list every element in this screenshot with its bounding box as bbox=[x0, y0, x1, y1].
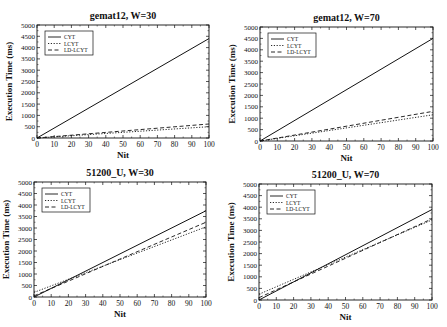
y-tick-label: 3000 bbox=[244, 69, 259, 77]
legend-label: LD-LCYT bbox=[287, 49, 311, 55]
x-axis-label: Nit bbox=[340, 312, 352, 322]
legend-label: LCYT bbox=[61, 198, 76, 204]
series-group bbox=[34, 211, 206, 297]
series-line-lcyt bbox=[34, 227, 206, 293]
y-tick-label: 3500 bbox=[18, 213, 33, 221]
chart-title: gemat12, W=70 bbox=[313, 12, 380, 23]
x-tick-label: 0 bbox=[35, 140, 39, 149]
y-tick-label: 2500 bbox=[243, 239, 258, 247]
y-tick-label: 1000 bbox=[244, 115, 259, 123]
x-tick-label: 100 bbox=[427, 143, 439, 152]
y-tick-label: 3500 bbox=[21, 55, 36, 63]
y-tick-label: 0 bbox=[255, 138, 259, 146]
series-line-lcyt bbox=[259, 220, 432, 294]
y-tick-label: 4500 bbox=[21, 33, 36, 41]
legend-label: LCYT bbox=[287, 43, 302, 49]
chart-panel-1: gemat12, W=700102030405060708090100Nit05… bbox=[224, 0, 447, 169]
x-tick-label: 80 bbox=[394, 302, 402, 311]
chart-svg: gemat12, W=700102030405060708090100Nit05… bbox=[224, 0, 447, 165]
y-tick-label: 2500 bbox=[18, 236, 33, 244]
legend: CYTLCYTLD-LCYT bbox=[45, 31, 93, 55]
y-axis-label: Execution Time (ms) bbox=[227, 44, 237, 124]
y-tick-label: 4000 bbox=[243, 204, 258, 212]
x-tick-label: 60 bbox=[136, 140, 144, 149]
legend-label: LD-LCYT bbox=[64, 47, 88, 53]
y-tick-label: 4500 bbox=[18, 190, 33, 198]
chart-title: gemat12, W=30 bbox=[90, 10, 157, 21]
y-tick-label: 2000 bbox=[18, 248, 33, 256]
x-tick-label: 20 bbox=[291, 143, 299, 152]
x-tick-label: 20 bbox=[290, 302, 298, 311]
y-tick-label: 1000 bbox=[18, 271, 33, 279]
y-tick-label: 3000 bbox=[21, 67, 36, 75]
y-tick-label: 2500 bbox=[244, 81, 259, 89]
x-tick-label: 0 bbox=[258, 143, 262, 152]
y-tick-label: 1500 bbox=[244, 103, 259, 111]
y-tick-label: 1000 bbox=[243, 273, 258, 281]
series-line-cyt bbox=[34, 211, 206, 297]
series-line-lcyt bbox=[260, 115, 433, 141]
chart-svg: gemat12, W=300102030405060708090100Nit05… bbox=[0, 0, 224, 165]
series-line-ld-lcyt bbox=[34, 222, 206, 296]
x-tick-label: 0 bbox=[257, 302, 261, 311]
x-tick-label: 80 bbox=[168, 299, 176, 308]
y-tick-label: 500 bbox=[248, 126, 259, 134]
x-tick-label: 70 bbox=[376, 302, 384, 311]
y-tick-label: 4000 bbox=[21, 44, 36, 52]
x-tick-label: 90 bbox=[411, 302, 419, 311]
legend-label: CYT bbox=[61, 191, 73, 197]
y-tick-label: 500 bbox=[22, 282, 33, 290]
x-tick-label: 10 bbox=[47, 299, 55, 308]
y-tick-label: 2000 bbox=[244, 92, 259, 100]
legend-label: LD-LCYT bbox=[286, 206, 310, 212]
x-tick-label: 90 bbox=[188, 140, 196, 149]
y-axis-label: Execution Time (ms) bbox=[4, 42, 14, 122]
legend-label: CYT bbox=[286, 193, 298, 199]
legend: CYTLCYTLD-LCYT bbox=[42, 188, 90, 212]
y-tick-label: 5000 bbox=[244, 24, 259, 32]
y-tick-label: 3000 bbox=[18, 225, 33, 233]
x-tick-label: 10 bbox=[273, 302, 281, 311]
y-tick-label: 2000 bbox=[21, 89, 36, 97]
y-tick-label: 4000 bbox=[244, 46, 259, 54]
chart-svg: 51200_U, W=700102030405060708090100Nit05… bbox=[224, 162, 447, 327]
x-axis-label: Nit bbox=[117, 150, 129, 160]
x-tick-label: 40 bbox=[102, 140, 110, 149]
x-tick-label: 50 bbox=[342, 302, 350, 311]
chart-svg: 51200_U, W=300102030405060708090100Nit05… bbox=[0, 162, 224, 327]
y-axis-label: Execution Time (ms) bbox=[226, 202, 236, 282]
x-tick-label: 20 bbox=[68, 140, 76, 149]
x-tick-label: 30 bbox=[85, 140, 93, 149]
x-tick-label: 40 bbox=[325, 143, 333, 152]
x-tick-label: 40 bbox=[324, 302, 332, 311]
y-tick-label: 0 bbox=[29, 294, 33, 302]
y-tick-label: 2000 bbox=[243, 250, 258, 258]
y-tick-label: 500 bbox=[247, 285, 258, 293]
x-tick-label: 30 bbox=[307, 302, 315, 311]
x-tick-label: 60 bbox=[359, 302, 367, 311]
x-tick-label: 50 bbox=[119, 140, 127, 149]
x-tick-label: 70 bbox=[151, 299, 159, 308]
chart-title: 51200_U, W=30 bbox=[86, 167, 154, 178]
series-line-cyt bbox=[259, 210, 432, 300]
x-tick-label: 90 bbox=[185, 299, 193, 308]
x-tick-label: 70 bbox=[377, 143, 385, 152]
x-axis-label: Nit bbox=[114, 309, 126, 319]
chart-panel-3: 51200_U, W=700102030405060708090100Nit05… bbox=[224, 162, 447, 327]
x-tick-label: 10 bbox=[274, 143, 282, 152]
chart-panel-2: 51200_U, W=300102030405060708090100Nit05… bbox=[0, 162, 224, 327]
x-tick-label: 50 bbox=[343, 143, 351, 152]
x-tick-label: 30 bbox=[82, 299, 90, 308]
x-tick-label: 80 bbox=[171, 140, 179, 149]
y-axis-label: Execution Time (ms) bbox=[1, 200, 11, 280]
y-tick-label: 5000 bbox=[21, 22, 36, 30]
x-tick-label: 90 bbox=[412, 143, 420, 152]
x-tick-label: 100 bbox=[426, 302, 438, 311]
y-tick-label: 5000 bbox=[18, 179, 33, 187]
y-tick-label: 500 bbox=[25, 123, 36, 131]
x-tick-label: 0 bbox=[32, 299, 36, 308]
x-tick-label: 70 bbox=[154, 140, 162, 149]
y-tick-label: 1500 bbox=[18, 259, 33, 267]
y-tick-label: 4000 bbox=[18, 202, 33, 210]
y-tick-label: 5000 bbox=[243, 181, 258, 189]
